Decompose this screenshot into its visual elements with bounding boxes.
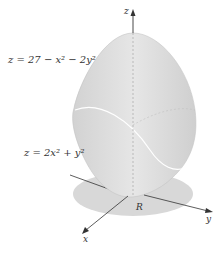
z-arrow-icon: [131, 9, 136, 16]
top-surface-label: z = 27 − x² − 2y²: [8, 54, 96, 65]
figure: z z = 27 − x² − 2y² z = 2x² + y² R x y: [0, 0, 224, 256]
region-label: R: [136, 202, 143, 212]
y-arrow-icon: [205, 208, 213, 213]
y-axis-label: y: [206, 214, 211, 224]
x-axis-label: x: [83, 234, 88, 244]
z-axis-label: z: [124, 6, 129, 16]
bottom-surface-label: z = 2x² + y²: [24, 147, 84, 158]
diagram-graphic: [0, 0, 224, 256]
